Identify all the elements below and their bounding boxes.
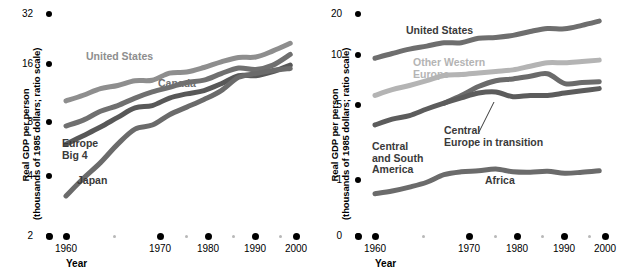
x-tick-dot-left-1970 xyxy=(157,233,164,240)
x-axis-origin-dot-right xyxy=(355,233,362,240)
y-axis-title-right-line2: (thousands of 1985 dollars; ratio scale) xyxy=(340,50,351,220)
y-tick-label-right-20: 20 xyxy=(331,9,342,19)
x-minor-tick-left-1975 xyxy=(185,235,188,238)
x-tick-dot-right-2000 xyxy=(602,233,609,240)
series-label-europe-big-4-left: Europe Big 4 xyxy=(62,138,98,161)
y-tick-dot-right-5 xyxy=(355,102,361,108)
series-label-europe-big-4-line2: Big 4 xyxy=(62,149,88,161)
y-tick-label-right-10: 10 xyxy=(331,50,342,60)
x-tick-label-left-1970: 1970 xyxy=(140,243,180,254)
y-tick-label-left-2: 2 xyxy=(27,231,33,241)
x-axis-title-left: Year xyxy=(66,258,87,269)
x-tick-dot-left-1980 xyxy=(205,233,212,240)
series-label-central-europe-line2: Europe in transition xyxy=(444,136,543,148)
y-tick-dot-right-10 xyxy=(355,52,361,58)
x-tick-dot-left-1960 xyxy=(63,233,70,240)
series-label-europe-big-4-line1: Europe xyxy=(62,137,98,149)
y-tick-dot-left-32 xyxy=(46,11,52,17)
series-label-other-western-europe-right: Other Western Europe xyxy=(413,57,485,80)
y-tick-label-right-5: 5 xyxy=(336,100,342,110)
y-tick-dot-right-1 xyxy=(355,177,361,183)
series-line-canada-left xyxy=(66,54,290,126)
x-tick-dot-right-1990 xyxy=(561,233,568,240)
series-label-central-south-america-right: Central and South America xyxy=(372,141,423,176)
chart-panel-right: Real GDP per person (thousands of 1985 d… xyxy=(309,0,617,279)
x-tick-label-left-1960: 1960 xyxy=(46,243,86,254)
x-minor-tick-left-1985 xyxy=(232,235,235,238)
x-minor-tick-right-1985 xyxy=(541,235,544,238)
series-label-central-europe-line1: Central xyxy=(444,124,480,136)
x-tick-label-right-1980: 1980 xyxy=(497,243,537,254)
x-axis-origin-dot-left xyxy=(46,233,53,240)
y-tick-label-left-8: 8 xyxy=(27,117,33,127)
chart-panel-left: Real GDP per person (thousands of 1985 d… xyxy=(0,0,308,279)
x-tick-label-right-1990: 1990 xyxy=(544,243,584,254)
x-minor-tick-right-1965 xyxy=(422,235,425,238)
series-label-central-europe-right: Central Europe in transition xyxy=(444,125,543,148)
series-label-central-south-america-line3: America xyxy=(372,163,413,175)
series-label-central-south-america-line2: and South xyxy=(372,152,423,164)
series-label-central-south-america-line1: Central xyxy=(372,140,408,152)
y-tick-label-left-4: 4 xyxy=(27,171,33,181)
x-minor-tick-right-1995 xyxy=(588,235,591,238)
y-tick-dot-left-4 xyxy=(46,173,52,179)
y-axis-title-left-line2: (thousands of 1985 dollars; ratio scale) xyxy=(31,50,42,220)
y-tick-dot-left-8 xyxy=(46,119,52,125)
figure-two-panel-gdp-chart: Real GDP per person (thousands of 1985 d… xyxy=(0,0,617,279)
y-tick-dot-left-16 xyxy=(46,61,52,67)
series-line-other-western-europe-right xyxy=(375,60,599,95)
series-line-central-south-america-right xyxy=(375,89,599,125)
x-tick-label-left-1990: 1990 xyxy=(235,243,275,254)
series-label-united-states-left: United States xyxy=(86,51,153,63)
series-label-canada-left: Canada xyxy=(158,78,196,90)
series-label-other-western-europe-line2: Europe xyxy=(413,68,449,80)
x-tick-dot-right-1980 xyxy=(514,233,521,240)
x-tick-dot-left-2000 xyxy=(293,233,300,240)
x-tick-label-right-1960: 1960 xyxy=(355,243,395,254)
y-tick-label-right-1: 1 xyxy=(336,175,342,185)
x-tick-dot-right-1960 xyxy=(372,233,379,240)
series-label-africa-right: Africa xyxy=(485,175,515,187)
series-label-united-states-right: United States xyxy=(406,25,473,37)
y-tick-label-left-32: 32 xyxy=(22,9,33,19)
x-tick-label-right-2000: 2000 xyxy=(585,243,617,254)
x-tick-label-left-1980: 1980 xyxy=(188,243,228,254)
y-tick-dot-right-20 xyxy=(355,11,361,17)
x-minor-tick-right-1975 xyxy=(494,235,497,238)
x-tick-label-right-1970: 1970 xyxy=(449,243,489,254)
y-tick-label-left-16: 16 xyxy=(22,59,33,69)
x-minor-tick-left-1995 xyxy=(279,235,282,238)
series-label-other-western-europe-line1: Other Western xyxy=(413,56,485,68)
series-label-japan-left: Japan xyxy=(77,175,107,187)
x-tick-dot-left-1990 xyxy=(252,233,259,240)
x-minor-tick-left-1965 xyxy=(113,235,116,238)
y-axis-title-left: Real GDP per person (thousands of 1985 d… xyxy=(20,50,42,220)
y-axis-title-right: Real GDP per person (thousands of 1985 d… xyxy=(329,50,351,220)
y-axis-title-left-line1: Real GDP per person xyxy=(20,89,31,182)
x-tick-dot-right-1970 xyxy=(466,233,473,240)
x-axis-title-right: Year xyxy=(375,258,396,269)
y-tick-label-right-0: 0 xyxy=(336,231,342,241)
